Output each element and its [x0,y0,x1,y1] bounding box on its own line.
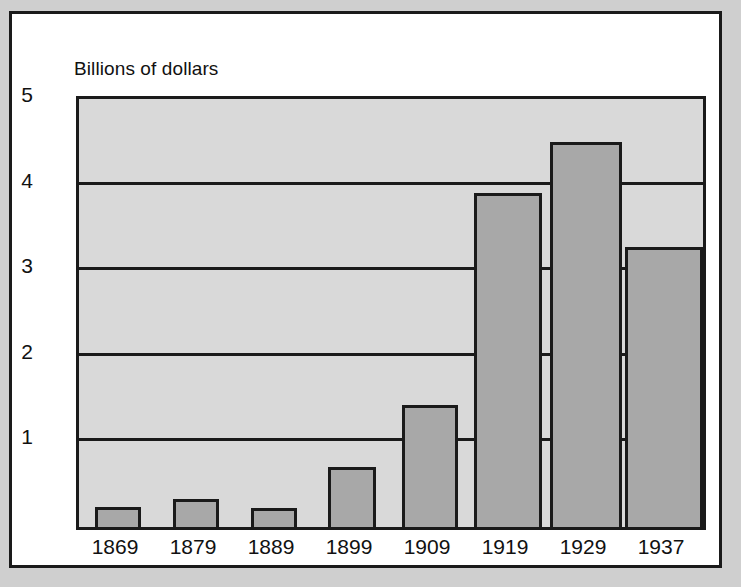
bar [251,508,296,527]
bar [402,405,458,527]
bars-layer [79,99,703,527]
axis-unit-label: Billions of dollars [74,58,218,80]
bar [625,247,703,527]
x-tick-label: 1909 [388,535,466,559]
x-tick-label: 1937 [622,535,700,559]
x-tick-label: 1889 [232,535,310,559]
y-tick-label: 5 [0,83,33,107]
x-tick-label: 1879 [154,535,232,559]
bar [95,507,140,527]
y-tick-label: 4 [0,169,33,193]
x-tick-label: 1899 [310,535,388,559]
x-tick-label: 1919 [466,535,544,559]
bar [173,499,218,527]
figure-root: Billions of dollars 12345 18691879188918… [0,0,741,587]
x-axis-labels: 18691879188918991909191919291937 [76,535,706,569]
y-tick-label: 3 [0,254,33,278]
bar [550,142,623,527]
plot-area [76,96,706,530]
bar [328,467,376,527]
y-tick-label: 2 [0,340,33,364]
bar [474,193,541,527]
y-tick-label: 1 [0,425,33,449]
figure-card: Billions of dollars 12345 18691879188918… [9,11,722,568]
x-tick-label: 1869 [76,535,154,559]
x-tick-label: 1929 [544,535,622,559]
